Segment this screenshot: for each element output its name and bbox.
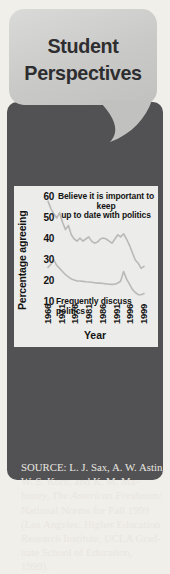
y-tick-label: 20 [14,275,54,286]
y-tick-label: 60 [14,191,54,202]
y-tick-label: 50 [14,212,54,223]
annotation-frequently-discuss: Frequently discuss politics [56,296,158,316]
speech-bubble-tail-icon [92,100,160,144]
x-tick-label: 1966 [42,304,53,324]
speech-bubble: Student Perspectives [9,9,157,105]
bubble-title-line1: Student [13,32,152,59]
series-frequently-discuss-line [48,260,144,295]
annotation-keep-up-line2: up to date with politics [54,211,158,221]
y-tick-label: 30 [14,254,54,265]
bubble-title: Student Perspectives [13,9,152,86]
source-note: SOURCE: L. J. Sax, A. W. Astin, W. S. Ko… [21,460,167,574]
source-text-suffix: National Norms for Fall 1999 (Los Angele… [21,504,161,573]
line-chart: Percentage agreeing 605040302010 1966197… [14,186,158,347]
annotation-keep-up-to-date: Believe it is important to keep up to da… [54,192,158,221]
annotation-keep-up-line1: Believe it is important to keep [54,192,158,211]
y-tick-label: 40 [14,233,54,244]
source-italic-title: The American Freshman: [52,489,162,501]
x-axis-title: Year [30,329,160,341]
bubble-title-line2: Perspectives [13,59,152,86]
